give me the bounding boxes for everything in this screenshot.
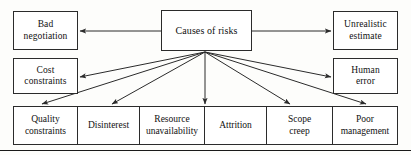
node-label-attrition: Attrition [219, 120, 252, 132]
connector-hub-to-human-error [205, 52, 331, 77]
node-label-bad-negotiation: Badnegotiation [16, 19, 75, 42]
node-bad-negotiation[interactable]: Badnegotiation [13, 11, 78, 50]
node-label-poor-management: Poormanagement [341, 114, 390, 137]
node-label-cost-constraints: Costconstraints [16, 65, 75, 88]
node-poor-management[interactable]: Poormanagement [333, 106, 398, 145]
node-unrealistic-estimate[interactable]: Unrealisticestimate [333, 11, 398, 50]
connector-hub-to-cost-constraints [80, 52, 205, 77]
node-label-unrealistic-estimate: Unrealisticestimate [336, 19, 395, 42]
node-cost-constraints[interactable]: Costconstraints [13, 58, 78, 94]
cause-of-risks-diagram: Causes of risks Badnegotiation Costconst… [0, 0, 411, 155]
node-causes-of-risks[interactable]: Causes of risks [161, 10, 252, 51]
node-label-causes-of-risks: Causes of risks [164, 25, 249, 37]
node-attrition[interactable]: Attrition [205, 106, 267, 145]
node-label-scope-creep: Scopecreep [288, 114, 311, 137]
node-scope-creep[interactable]: Scopecreep [267, 106, 333, 145]
bottom-divider-rule [0, 150, 411, 151]
connector-hub-to-scope-creep [205, 52, 290, 104]
node-disinterest[interactable]: Disinterest [78, 106, 140, 145]
connector-hub-to-disinterest [112, 52, 205, 104]
node-label-human-error: Humanerror [336, 65, 395, 88]
node-human-error[interactable]: Humanerror [333, 58, 398, 94]
node-quality-constraints[interactable]: Qualityconstraints [13, 106, 78, 145]
node-resource-unavailability[interactable]: Resourceunavailability [140, 106, 205, 145]
node-label-disinterest: Disinterest [88, 120, 129, 132]
node-label-resource-unavailability: Resourceunavailability [146, 114, 198, 137]
node-label-quality-constraints: Qualityconstraints [25, 114, 66, 137]
